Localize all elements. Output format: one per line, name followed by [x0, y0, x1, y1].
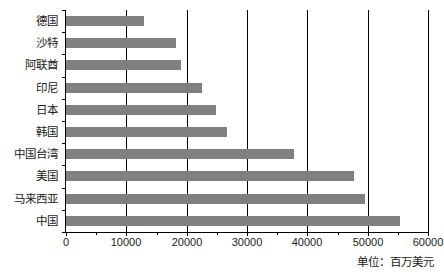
value-minor-tick: [217, 232, 218, 235]
category-tick: [62, 99, 66, 100]
category-label: 沙特: [36, 32, 58, 54]
value-minor-tick: [338, 232, 339, 235]
category-tick: [62, 54, 66, 55]
value-tick-label: 10000: [111, 236, 142, 248]
bar-row: [66, 99, 428, 121]
bar-row: [66, 54, 428, 76]
category-label: 韩国: [36, 121, 58, 143]
bar: [66, 194, 365, 204]
plot-area: [66, 10, 428, 232]
bar-row: [66, 188, 428, 210]
bar: [66, 60, 181, 70]
unit-note: 单位：百万美元: [357, 253, 434, 269]
category-tick: [62, 210, 66, 211]
value-tick-label: 0: [63, 236, 69, 248]
bar: [66, 16, 144, 26]
category-label: 美国: [36, 165, 58, 187]
category-label: 马来西亚: [14, 188, 58, 210]
category-tick: [62, 10, 66, 11]
value-tick-label: 20000: [172, 236, 203, 248]
bar: [66, 38, 176, 48]
category-label: 德国: [36, 10, 58, 32]
category-tick: [62, 232, 66, 233]
bar-row: [66, 77, 428, 99]
value-tick-label: 60000: [413, 236, 444, 248]
horizontal-bar-chart: 德国沙特阿联酋印尼日本韩国中国台湾美国马来西亚中国 01000020000300…: [0, 0, 444, 274]
value-tick-label: 50000: [353, 236, 384, 248]
category-tick: [62, 32, 66, 33]
category-tick: [62, 188, 66, 189]
category-tick: [62, 165, 66, 166]
category-tick: [62, 121, 66, 122]
bar: [66, 105, 216, 115]
bar: [66, 216, 400, 226]
value-minor-tick: [398, 232, 399, 235]
category-label: 中国: [36, 210, 58, 232]
bar: [66, 127, 227, 137]
value-tick-label: 40000: [292, 236, 323, 248]
value-minor-tick: [96, 232, 97, 235]
category-tick: [62, 77, 66, 78]
bar-row: [66, 10, 428, 32]
category-axis-labels: 德国沙特阿联酋印尼日本韩国中国台湾美国马来西亚中国: [0, 10, 62, 232]
axis-line-right: [428, 10, 429, 232]
value-minor-tick: [277, 232, 278, 235]
bar-row: [66, 121, 428, 143]
bar: [66, 83, 202, 93]
category-label: 印尼: [36, 77, 58, 99]
category-label: 中国台湾: [14, 143, 58, 165]
bar: [66, 149, 294, 159]
value-minor-tick: [157, 232, 158, 235]
bar-row: [66, 32, 428, 54]
category-tick: [62, 143, 66, 144]
category-label: 阿联酋: [25, 54, 58, 76]
category-label: 日本: [36, 99, 58, 121]
value-tick-label: 30000: [232, 236, 263, 248]
bar-row: [66, 210, 428, 232]
bar-row: [66, 143, 428, 165]
bar-row: [66, 165, 428, 187]
bar: [66, 171, 354, 181]
